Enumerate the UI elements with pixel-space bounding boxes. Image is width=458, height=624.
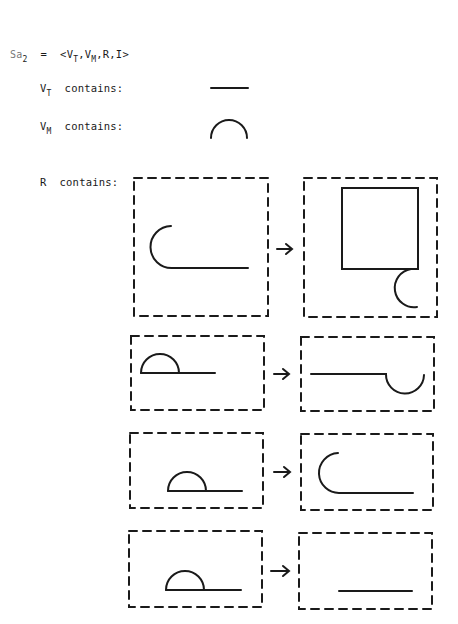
rule-1-rhs-semicircle-icon: [395, 269, 417, 307]
rule-4-lhs-semicircle-icon: [166, 571, 204, 590]
rule-2-lhs-semicircle-icon: [141, 354, 179, 373]
rule-3-rhs-box: [301, 434, 433, 510]
rule-4-rhs-box: [299, 533, 432, 609]
rule-2: [131, 336, 434, 411]
rule-1-rhs-square-icon: [342, 188, 418, 269]
rule-4: [129, 531, 432, 609]
rule-1: [134, 178, 437, 317]
rule-4-arrow-icon: [271, 566, 289, 576]
rule-2-rhs-line-hook-icon: [311, 374, 424, 393]
rule-1-arrow-icon: [277, 244, 292, 254]
rule-2-arrow-icon: [274, 369, 289, 379]
rule-3-arrow-icon: [274, 467, 290, 477]
rule-3-lhs-box: [130, 433, 263, 508]
rule-1-lhs-hook-icon: [151, 226, 248, 268]
rule-3: [130, 433, 433, 510]
rules-figure: [0, 0, 458, 624]
rule-1-lhs-box: [134, 178, 268, 316]
rule-3-lhs-semicircle-icon: [168, 472, 206, 491]
rule-3-rhs-hook-icon: [319, 453, 413, 493]
vm-semicircle-icon: [211, 120, 247, 138]
rule-4-lhs-box: [129, 531, 262, 607]
